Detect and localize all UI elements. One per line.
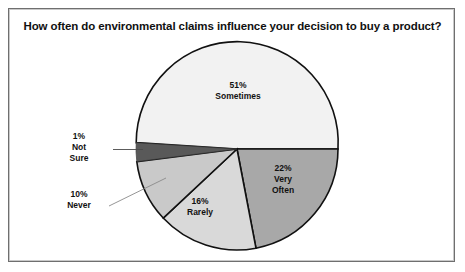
pie-label-sometimes: 51% Sometimes bbox=[178, 80, 298, 102]
pie-label-never: 10% Never bbox=[44, 189, 114, 211]
pie-label-not-sure: 1% Not Sure bbox=[48, 131, 110, 164]
pie-label-rarely: 16% Rarely bbox=[165, 196, 235, 218]
pie-label-very-often: 22% Very Often bbox=[248, 163, 318, 196]
chart-page: How often do environmental claims influe… bbox=[0, 0, 465, 272]
pie-chart: 51% Sometimes 22% Very Often 16% Rarely … bbox=[0, 0, 465, 272]
